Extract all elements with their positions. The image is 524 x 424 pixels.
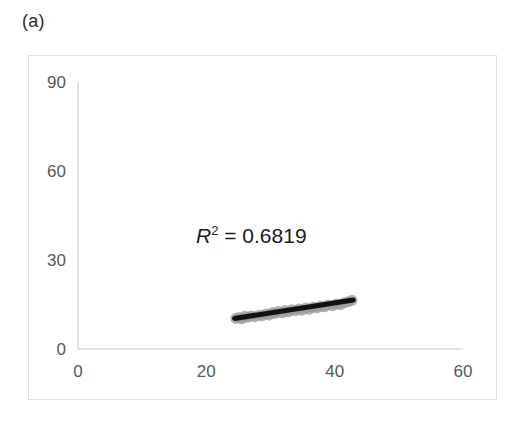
y-axis-tick-label: 90 <box>47 73 66 92</box>
figure-panel: (a) 03060900204060 R2 = 0.6819 <box>0 0 524 424</box>
x-axis-tick-label: 20 <box>197 362 216 381</box>
plot-canvas: 03060900204060 <box>0 0 524 424</box>
r-squared-symbol: R <box>196 224 211 247</box>
y-axis-tick-label: 60 <box>47 162 66 181</box>
x-axis-tick-label: 40 <box>325 362 344 381</box>
y-axis-tick-label: 30 <box>47 251 66 270</box>
r-squared-value: = 0.6819 <box>218 224 306 247</box>
x-axis-tick-label: 60 <box>454 362 473 381</box>
x-axis-tick-label: 0 <box>73 362 82 381</box>
r-squared-annotation: R2 = 0.6819 <box>196 224 307 246</box>
y-axis-tick-label: 0 <box>57 340 66 359</box>
